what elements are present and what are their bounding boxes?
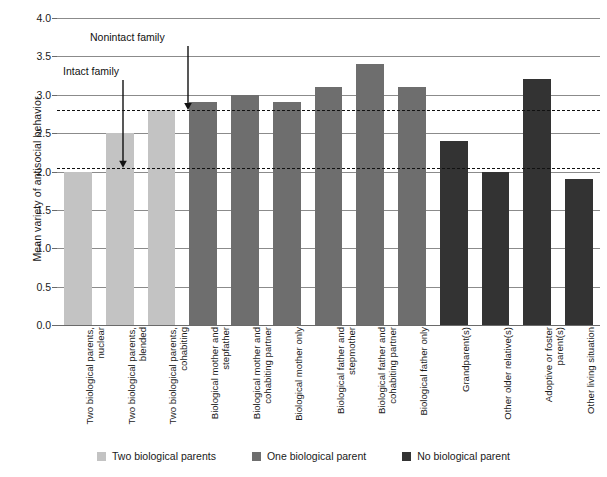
bar [523, 79, 551, 325]
x-tick-label: Adoptive or foster parent(s) [543, 327, 566, 435]
bar [356, 64, 384, 325]
antisocial-behavior-bar-chart: Mean variety of antisocial behavior 0.00… [0, 0, 607, 477]
legend-swatch-icon [97, 452, 106, 461]
x-tick-label: Grandparent(s) [460, 327, 471, 435]
x-tick-label: Other older relative(s) [502, 327, 513, 435]
annotation-label: Nonintact family [90, 31, 165, 43]
legend-item: No biological parent [402, 450, 510, 462]
bar [398, 87, 426, 325]
reference-line [57, 110, 600, 111]
reference-line [57, 168, 600, 169]
x-tick-label: Two biological parents, cohabiting [167, 327, 190, 435]
legend-label: One biological parent [267, 450, 366, 462]
legend-item: One biological parent [252, 450, 366, 462]
x-tick-label: Biological mother and stepfather [209, 327, 232, 435]
bar [273, 102, 301, 325]
legend-item: Two biological parents [97, 450, 216, 462]
legend-label: No biological parent [417, 450, 510, 462]
bar [64, 172, 92, 326]
x-tick-label: Other living situation [585, 327, 596, 435]
y-tick-label: 2.5 [36, 127, 51, 139]
y-tick-mark [52, 325, 57, 326]
y-tick-label: 1.5 [36, 204, 51, 216]
legend-label: Two biological parents [112, 450, 216, 462]
annotation-arrow-icon [181, 46, 195, 112]
bar [565, 179, 593, 325]
y-tick-label: 0.0 [36, 319, 51, 331]
x-tick-label: Two biological parents, blended [126, 327, 149, 435]
legend-swatch-icon [252, 452, 261, 461]
x-tick-label: Biological father only [418, 327, 429, 435]
x-tick-label: Biological mother and cohabiting partner [251, 327, 274, 435]
y-tick-label: 1.0 [36, 242, 51, 254]
x-tick-label: Biological father and stepmother [335, 327, 358, 435]
bar [231, 95, 259, 325]
bar [482, 172, 510, 326]
y-tick-label: 0.5 [36, 281, 51, 293]
legend-swatch-icon [402, 452, 411, 461]
y-tick-label: 2.0 [36, 166, 51, 178]
bar [148, 110, 176, 325]
bars-layer [57, 18, 600, 325]
y-tick-label: 3.5 [36, 50, 51, 62]
legend: Two biological parentsOne biological par… [0, 450, 607, 462]
gridline [57, 325, 600, 326]
annotation-label: Intact family [63, 65, 119, 77]
x-tick-label: Two biological parents, nuclear [84, 327, 107, 435]
x-tick-label: Biological father and cohabiting partner [376, 327, 399, 435]
plot-area: 0.00.51.01.52.02.53.03.54.0 Intact famil… [57, 18, 600, 325]
x-axis-labels: Two biological parents, nuclearTwo biolo… [57, 327, 600, 442]
bar [315, 87, 343, 325]
x-tick-label: Biological mother only [293, 327, 304, 435]
annotation-arrow-icon [116, 80, 130, 170]
bar [189, 102, 217, 325]
y-tick-label: 4.0 [36, 12, 51, 24]
y-tick-label: 3.0 [36, 89, 51, 101]
